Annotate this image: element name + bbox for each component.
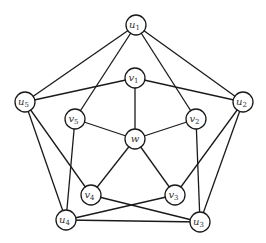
node-label-subscript: 3	[174, 194, 178, 202]
node-v1: v1	[125, 68, 145, 88]
node-v5: v5	[65, 109, 85, 129]
edge-u3-v2	[196, 119, 200, 222]
node-v3: v3	[165, 185, 185, 205]
edge-u4-u5	[25, 102, 66, 220]
node-layer: u1u2u3u4u5v1v2v3v4v5w	[15, 15, 253, 232]
node-label-subscript: 2	[195, 118, 199, 126]
node-u1: u1	[126, 15, 146, 35]
node-u3: u3	[190, 212, 210, 232]
edge-u1-v2	[136, 25, 196, 119]
edge-u2-v3	[175, 102, 243, 195]
node-label-base: w	[131, 133, 140, 144]
node-label-subscript: 5	[74, 118, 78, 126]
node-u2: u2	[233, 92, 253, 112]
edge-w-v4	[91, 139, 135, 195]
node-label-subscript: 1	[134, 77, 138, 85]
edge-layer	[25, 25, 243, 222]
node-v2: v2	[186, 109, 206, 129]
node-label-subscript: 4	[65, 219, 70, 227]
node-label-subscript: 5	[24, 101, 28, 109]
edge-u3-u4	[66, 220, 200, 222]
node-label-subscript: 1	[135, 24, 139, 32]
node-label-subscript: 3	[199, 221, 203, 229]
node-label: w	[131, 133, 140, 144]
node-u4: u4	[56, 210, 76, 230]
node-w: w	[125, 129, 145, 149]
node-u5: u5	[15, 92, 35, 112]
graph-diagram: u1u2u3u4u5v1v2v3v4v5w	[0, 0, 266, 243]
node-label-subscript: 4	[90, 194, 95, 202]
node-v4: v4	[81, 185, 101, 205]
node-label-subscript: 2	[242, 101, 246, 109]
